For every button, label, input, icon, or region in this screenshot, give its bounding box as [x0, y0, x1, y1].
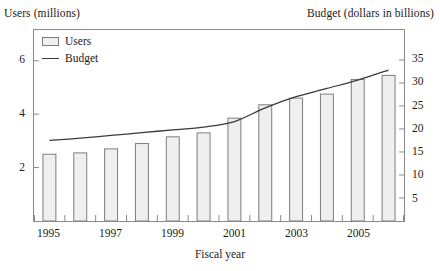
left-tick-label-2: 2 — [0, 162, 25, 174]
bar-1995 — [43, 154, 56, 221]
chart-legend: Users Budget — [42, 34, 98, 68]
x-tick-label-1997: 1997 — [91, 228, 131, 240]
bar-2003 — [290, 98, 303, 221]
bars-group — [43, 75, 395, 221]
x-tick-label-2003: 2003 — [277, 228, 317, 240]
bar-swatch-icon — [42, 37, 59, 46]
plot-area: Users Budget — [33, 29, 405, 222]
x-tick-label-1995: 1995 — [29, 228, 69, 240]
left-tick-label-6: 6 — [0, 54, 25, 66]
line-swatch-icon — [42, 54, 59, 63]
axis-ticks-group — [34, 60, 404, 221]
bar-2006 — [382, 75, 395, 221]
right-tick-label-25: 25 — [412, 100, 424, 112]
bar-1997 — [105, 149, 118, 221]
right-tick-label-30: 30 — [412, 76, 424, 88]
bar-1998 — [135, 144, 148, 221]
x-tick-label-2005: 2005 — [339, 228, 379, 240]
bar-2000 — [197, 133, 210, 221]
right-axis-title: Budget (dollars in billions) — [307, 8, 434, 20]
x-tick-label-1999: 1999 — [153, 228, 193, 240]
bar-2002 — [259, 105, 272, 221]
left-tick-label-4: 4 — [0, 108, 25, 120]
x-tick-label-2001: 2001 — [215, 228, 255, 240]
bar-1999 — [166, 137, 179, 221]
x-axis-title: Fiscal year — [0, 249, 440, 261]
left-axis-title: Users (millions) — [4, 8, 80, 20]
right-tick-label-10: 10 — [412, 169, 424, 181]
right-tick-label-35: 35 — [412, 53, 424, 65]
right-tick-label-5: 5 — [412, 193, 418, 205]
legend-item-budget: Budget — [42, 51, 98, 66]
bar-2005 — [351, 79, 364, 221]
legend-label-users: Users — [65, 36, 91, 48]
right-tick-label-15: 15 — [412, 146, 424, 158]
budget-line — [49, 70, 388, 140]
chart-container: Users (millions) Budget (dollars in bill… — [0, 0, 440, 271]
right-tick-label-20: 20 — [412, 123, 424, 135]
bar-2001 — [228, 118, 241, 221]
bar-1996 — [74, 153, 87, 221]
bar-2004 — [320, 94, 333, 221]
legend-item-users: Users — [42, 34, 98, 49]
legend-label-budget: Budget — [65, 53, 98, 65]
budget-line-group — [49, 70, 388, 140]
